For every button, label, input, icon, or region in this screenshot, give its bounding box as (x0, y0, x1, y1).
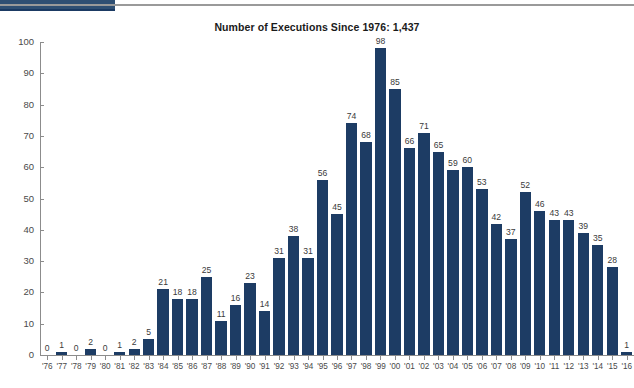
x-axis-label: '90 (243, 362, 257, 371)
x-axis-label: '77 (54, 362, 68, 371)
bar-value-label: 38 (283, 224, 304, 234)
x-axis-tick (62, 356, 63, 360)
bar-value-label: 56 (312, 168, 333, 178)
x-axis-tick (467, 356, 468, 360)
x-axis-tick (236, 356, 237, 360)
x-axis-tick (76, 356, 77, 360)
x-axis-label: '81 (112, 362, 126, 371)
horizontal-divider (0, 4, 634, 6)
bar-value-label: 14 (254, 299, 275, 309)
x-axis-label: '04 (446, 362, 460, 371)
bar-value-label: 65 (428, 140, 449, 150)
browser-top-strip (0, 0, 634, 9)
x-axis-label: '99 (373, 362, 387, 371)
bar-value-label: 53 (471, 177, 492, 187)
x-axis-label: '87 (199, 362, 213, 371)
chart-title: Number of Executions Since 1976: 1,437 (0, 21, 634, 33)
bar-value-label: 98 (370, 36, 391, 46)
x-axis-label: '05 (460, 362, 474, 371)
y-axis-label: 40 (0, 224, 34, 235)
x-axis-label: '02 (417, 362, 431, 371)
x-axis-tick (337, 356, 338, 360)
x-axis-label: '08 (504, 362, 518, 371)
x-axis-tick (380, 356, 381, 360)
bar-value-label: 5 (138, 327, 159, 337)
x-axis-label: '76 (40, 362, 54, 371)
x-axis-tick (511, 356, 512, 360)
bar-value-label: 25 (196, 265, 217, 275)
x-axis-tick (294, 356, 295, 360)
x-axis-label: '14 (591, 362, 605, 371)
bar-value-label: 43 (558, 208, 579, 218)
x-axis-label: '03 (431, 362, 445, 371)
x-axis-label: '12 (562, 362, 576, 371)
y-axis-label: 0 (0, 349, 34, 360)
x-axis-tick (134, 356, 135, 360)
x-axis-label: '98 (359, 362, 373, 371)
y-axis-label: 10 (0, 318, 34, 329)
x-axis-label: '94 (301, 362, 315, 371)
x-axis-label: '00 (388, 362, 402, 371)
x-axis-tick (221, 356, 222, 360)
x-axis-tick (540, 356, 541, 360)
y-axis-label: 100 (0, 36, 34, 47)
bar-value-label: 35 (587, 233, 608, 243)
y-axis-label: 60 (0, 161, 34, 172)
x-axis-label: '16 (620, 362, 634, 371)
y-axis-label: 80 (0, 99, 34, 110)
x-axis-label: '97 (344, 362, 358, 371)
x-axis-tick (105, 356, 106, 360)
bar-value-label: 16 (225, 293, 246, 303)
x-axis-label: '93 (286, 362, 300, 371)
y-axis-label: 20 (0, 286, 34, 297)
y-axis-label: 30 (0, 255, 34, 266)
x-axis-tick (554, 356, 555, 360)
y-axis-tick (40, 355, 44, 356)
x-axis-tick (250, 356, 251, 360)
bar-value-label: 28 (602, 255, 623, 265)
x-axis-label: '91 (257, 362, 271, 371)
x-axis-tick (395, 356, 396, 360)
x-axis-tick (192, 356, 193, 360)
x-axis-tick (569, 356, 570, 360)
y-axis-label: 70 (0, 130, 34, 141)
x-axis-tick (453, 356, 454, 360)
x-axis-label: '89 (228, 362, 242, 371)
bar-value-label: 71 (413, 121, 434, 131)
x-axis-tick (178, 356, 179, 360)
bar-value-label: 42 (486, 212, 507, 222)
x-axis-label: '13 (576, 362, 590, 371)
x-axis-label: '01 (402, 362, 416, 371)
bar-value-label: 85 (384, 77, 405, 87)
x-axis-label: '78 (69, 362, 83, 371)
x-axis-label: '85 (170, 362, 184, 371)
bar-value-label: 2 (123, 337, 144, 347)
x-axis-label: '80 (98, 362, 112, 371)
bar-value-label: 1 (616, 340, 634, 350)
bar-value-label: 37 (500, 227, 521, 237)
x-axis-tick (279, 356, 280, 360)
bar-value-label: 11 (210, 309, 231, 319)
x-axis-label: '06 (475, 362, 489, 371)
x-axis-label: '88 (214, 362, 228, 371)
bar-value-label: 23 (239, 271, 260, 281)
x-axis-tick (47, 356, 48, 360)
x-axis-label: '07 (489, 362, 503, 371)
bar-value-label: 74 (341, 111, 362, 121)
x-axis-label: '86 (185, 362, 199, 371)
bar-value-label: 45 (326, 202, 347, 212)
executions-bar-chart: Number of Executions Since 1976: 1,437 0… (0, 9, 634, 388)
x-axis-label: '83 (141, 362, 155, 371)
x-axis-tick (207, 356, 208, 360)
bar-value-label: 52 (515, 180, 536, 190)
x-axis-tick (149, 356, 150, 360)
x-axis-tick (482, 356, 483, 360)
y-axis-label: 50 (0, 193, 34, 204)
x-axis-tick (627, 356, 628, 360)
y-axis-label: 90 (0, 67, 34, 78)
x-axis-tick (265, 356, 266, 360)
x-axis-label: '15 (605, 362, 619, 371)
x-axis-label: '09 (518, 362, 532, 371)
bar-value-label: 60 (457, 155, 478, 165)
x-axis-label: '95 (315, 362, 329, 371)
